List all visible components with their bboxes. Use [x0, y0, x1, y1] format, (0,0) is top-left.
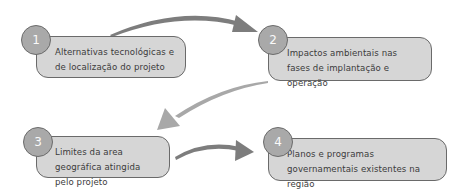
- arrow-1-to-2: [110, 15, 258, 37]
- step-label: Limites da area geográfica atingida pelo…: [36, 136, 170, 178]
- arrow-3-to-4: [175, 140, 254, 161]
- step-number-badge: 1: [21, 25, 51, 55]
- arrow-2-to-3: [157, 81, 268, 130]
- step-number-badge: 2: [258, 25, 288, 55]
- step-number-badge: 4: [263, 127, 293, 157]
- step-label: Planos e programas governamentais existe…: [268, 138, 447, 181]
- step-label: Alternativas tecnológicas e de localizaç…: [36, 36, 186, 78]
- step-label: Impactos ambientais nas fases de implant…: [268, 37, 432, 81]
- step-number-badge: 3: [23, 127, 53, 157]
